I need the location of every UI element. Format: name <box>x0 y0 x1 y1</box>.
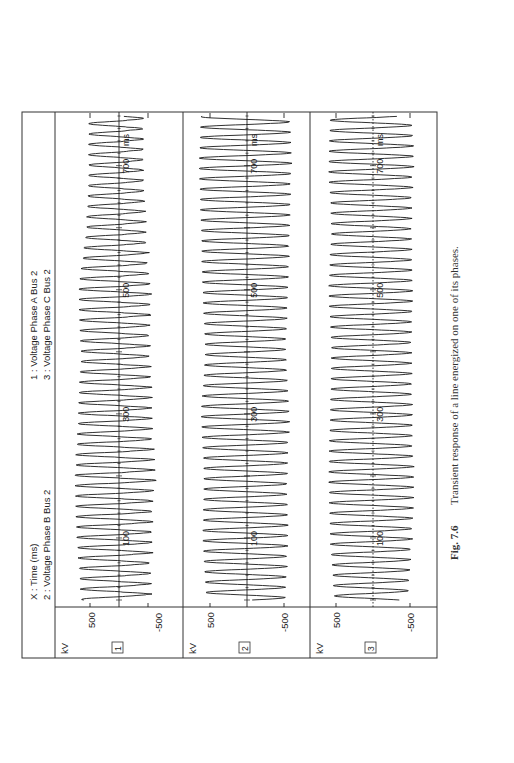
figure-caption: Fig. 7.6 Transient response of a line en… <box>448 246 460 560</box>
legend-series-3: 3 : Voltage Phase C Bus 2 <box>41 269 52 380</box>
panel-3-unit: kV <box>314 642 325 654</box>
panel-1-time-label-500: 500 <box>121 283 131 298</box>
panel-3-label: 3 <box>366 646 376 651</box>
waveform-1 <box>75 116 156 600</box>
panel-1-tick-500: 500 <box>86 612 97 628</box>
panel-2-time-label-300: 300 <box>249 407 259 422</box>
panel-1-time-label-300: 300 <box>121 407 131 422</box>
panel-3-plot <box>329 112 415 607</box>
legend-series-1: 1 : Voltage Phase A Bus 2 <box>28 271 39 380</box>
panel-3-tick-500: 500 <box>331 612 342 628</box>
panel-3-time-label-300: 300 <box>375 407 385 422</box>
panel-2-tick-500: 500 <box>205 612 216 628</box>
legend-series-2: 2 : Voltage Phase B Bus 2 <box>41 490 52 600</box>
panel-2-time-label-500: 500 <box>249 283 259 298</box>
caption-figure-number: Fig. 7.6 <box>448 525 460 560</box>
legend-x-label: X : Time (ms) <box>28 544 39 600</box>
transient-response-figure: X : Time (ms) 2 : Voltage Phase B Bus 2 … <box>0 0 514 763</box>
legend: X : Time (ms) 2 : Voltage Phase B Bus 2 … <box>28 269 52 600</box>
panel-1-time-label-100: 100 <box>121 531 131 546</box>
panel-3-time-unit: ms <box>375 133 385 145</box>
panel-1-unit: kV <box>59 642 70 654</box>
panel-2-time-label-700: 700 <box>249 159 259 174</box>
caption-text: Transient response of a line energized o… <box>448 246 460 505</box>
panel-2-unit: kV <box>187 642 198 654</box>
panel-2-label: 2 <box>240 646 250 651</box>
waveform-2 <box>199 116 292 600</box>
panel-1-label: 1 <box>113 646 123 651</box>
figure-frame <box>22 112 437 658</box>
panel-3-time-label-500: 500 <box>375 283 385 298</box>
panel-2-tick-neg500: -500 <box>279 613 290 632</box>
panel-2-time-label-100: 100 <box>249 531 259 546</box>
waveform-3 <box>329 116 415 600</box>
panel-1-time-unit: ms <box>121 133 131 145</box>
panel-1-tick-neg500: -500 <box>153 613 164 632</box>
panel-3-time-label-700: 700 <box>375 159 385 174</box>
panel-2-time-unit: ms <box>249 133 259 145</box>
panel-3-time-label-100: 100 <box>375 531 385 546</box>
panel-2-plot <box>199 112 292 607</box>
panel-3-tick-neg500: -500 <box>405 613 416 632</box>
panel-1-plot <box>75 112 156 607</box>
y-axis-labels: kV 500 -500 1 kV 500 -500 2 kV 500 -500 … <box>59 612 416 654</box>
panel-1-time-label-700: 700 <box>121 159 131 174</box>
